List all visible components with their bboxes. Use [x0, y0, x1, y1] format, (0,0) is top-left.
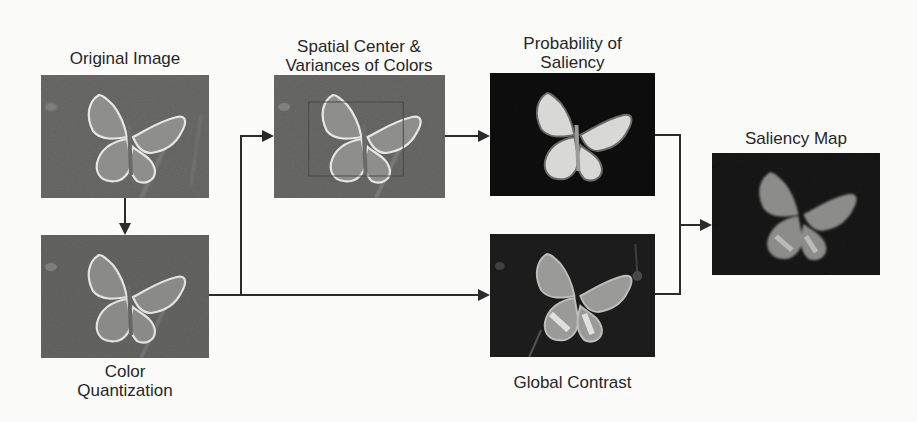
label-color-quantization: Color Quantization — [41, 362, 209, 400]
butterfly-contrast-map — [490, 234, 655, 357]
label-spatial-center: Spatial Center & Variances of Colors — [264, 37, 454, 75]
spatial-center-panel — [274, 75, 445, 198]
label-text: Global Contrast — [513, 373, 631, 392]
label-saliency-map: Saliency Map — [712, 129, 880, 148]
butterfly-photo-original — [41, 75, 209, 198]
arrow-head-right-icon — [478, 289, 490, 301]
connector-merge-vertical — [679, 134, 681, 295]
arrow-head-down-icon — [119, 223, 131, 235]
butterfly-saliency-map — [712, 153, 880, 275]
original-image-panel — [41, 75, 209, 198]
arrow-head-right-icon — [478, 130, 490, 142]
label-line: Quantization — [41, 381, 209, 400]
connector-to-saliency — [679, 224, 701, 226]
arrow-head-right-icon — [262, 130, 274, 142]
connector-probability-out — [655, 134, 681, 136]
connector-to-spatial — [240, 135, 263, 137]
label-original-image: Original Image — [41, 49, 209, 68]
butterfly-photo-spatial — [274, 75, 445, 198]
connector-spatial-to-probability — [445, 135, 479, 137]
label-line: Color — [41, 362, 209, 381]
color-quantization-panel — [41, 235, 209, 358]
label-line: Probability of — [480, 34, 665, 53]
label-global-contrast: Global Contrast — [480, 373, 665, 392]
connector-quantization-vertical — [240, 135, 242, 295]
butterfly-probability-map — [490, 73, 655, 196]
connector-contrast-out — [655, 293, 681, 295]
label-text: Saliency Map — [745, 129, 847, 148]
saliency-map-panel — [712, 153, 880, 275]
butterfly-photo-quantized — [41, 235, 209, 358]
probability-of-saliency-panel — [490, 73, 655, 196]
label-line: Spatial Center & — [264, 37, 454, 56]
global-contrast-panel — [490, 234, 655, 357]
arrow-head-right-icon — [700, 219, 712, 231]
label-line: Saliency — [480, 53, 665, 72]
label-text: Original Image — [70, 49, 181, 68]
label-probability-of-saliency: Probability of Saliency — [480, 34, 665, 72]
connector-quantization-horizontal — [209, 294, 479, 296]
label-line: Variances of Colors — [264, 56, 454, 75]
connector-original-to-quantization — [124, 198, 126, 224]
